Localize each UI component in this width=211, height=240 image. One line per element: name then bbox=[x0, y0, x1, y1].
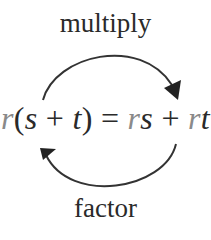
factor-arrow bbox=[46, 144, 176, 186]
eq-s: s bbox=[25, 100, 38, 136]
multiply-arrowhead-icon bbox=[164, 80, 181, 100]
eq-open-paren: ( bbox=[14, 100, 25, 136]
eq-rhs-r2: r bbox=[188, 100, 201, 136]
factor-label: factor bbox=[0, 193, 211, 224]
eq-plus: + bbox=[37, 100, 72, 136]
eq-rhs-s: s bbox=[140, 100, 153, 136]
eq-t: t bbox=[72, 100, 81, 136]
eq-rhs-r1: r bbox=[128, 100, 141, 136]
multiply-arrow bbox=[43, 56, 172, 100]
distributive-equation: r(s + t) = rs + rt bbox=[0, 100, 211, 137]
eq-close-paren: ) bbox=[82, 100, 93, 136]
eq-r: r bbox=[1, 100, 14, 136]
eq-rhs-t: t bbox=[201, 100, 210, 136]
eq-equals: = bbox=[93, 100, 128, 136]
eq-rhs-plus: + bbox=[153, 100, 188, 136]
multiply-label: multiply bbox=[0, 8, 211, 39]
